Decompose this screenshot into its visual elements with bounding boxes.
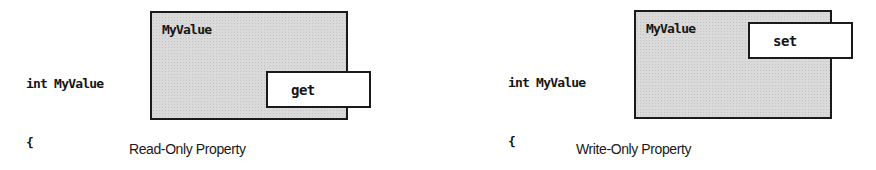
caption-read-only: Read-Only Property: [129, 141, 246, 157]
code-snippet: int MyValue { get{...} }: [26, 35, 103, 170]
code-snippet: int MyValue { set{...} }: [508, 34, 585, 170]
panel-read-only: int MyValue { get{...} } MyValue get Rea…: [0, 0, 438, 170]
code-open-brace: {: [26, 133, 103, 153]
set-accessor-label: set: [773, 33, 797, 49]
get-accessor-box: get: [266, 71, 371, 108]
get-accessor-label: get: [291, 82, 315, 98]
code-declaration: int MyValue: [508, 73, 585, 93]
set-accessor-box: set: [748, 22, 853, 59]
code-declaration: int MyValue: [26, 74, 103, 94]
property-box-label: MyValue: [162, 22, 211, 37]
caption-write-only: Write-Only Property: [576, 141, 691, 157]
property-box-label: MyValue: [646, 21, 695, 36]
code-open-brace: {: [508, 132, 585, 152]
panel-write-only: int MyValue { set{...} } MyValue set Wri…: [438, 0, 876, 170]
